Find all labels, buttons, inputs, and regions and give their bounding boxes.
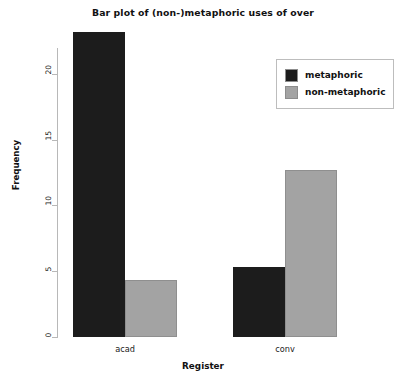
x-group-label-acad: acad — [85, 344, 165, 354]
x-group-label-conv: conv — [245, 344, 325, 354]
legend-swatch-non-metaphoric — [285, 86, 298, 99]
plot-area: 0 5 10 15 20 Frequency acad conv Registe… — [0, 0, 406, 389]
page-edge-artifact — [0, 380, 406, 389]
legend-item-metaphoric: metaphoric — [285, 67, 387, 84]
bar-acad-metaphoric — [73, 32, 125, 337]
y-tick-mark-15 — [52, 140, 57, 141]
legend-label-metaphoric: metaphoric — [305, 71, 363, 80]
y-axis-line — [57, 48, 58, 338]
y-tick-mark-10 — [52, 205, 57, 206]
legend-label-non-metaphoric: non-metaphoric — [305, 88, 385, 97]
y-tick-mark-5 — [52, 271, 57, 272]
bar-conv-metaphoric — [233, 267, 285, 337]
bar-conv-non-metaphoric — [285, 170, 337, 337]
y-tick-mark-20 — [52, 74, 57, 75]
legend: metaphoric non-metaphoric — [276, 59, 394, 109]
bar-acad-non-metaphoric — [125, 280, 177, 337]
x-axis-title: Register — [0, 361, 406, 371]
y-axis-title: Frequency — [11, 125, 21, 205]
y-tick-mark-0 — [52, 337, 57, 338]
legend-item-non-metaphoric: non-metaphoric — [285, 84, 387, 101]
legend-swatch-metaphoric — [285, 69, 298, 82]
